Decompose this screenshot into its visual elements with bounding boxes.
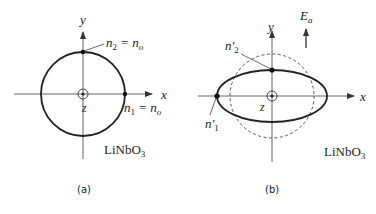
y-axis-label: y [266,19,274,34]
x-axis-label: x [160,87,167,102]
n1-label: n1 = no [124,100,162,117]
x-axis-label: x [359,89,366,104]
caption-a: (a) [77,184,91,195]
n1p-leader-line [210,98,216,115]
n1p-point [214,93,219,98]
n2-leader-line [84,44,104,51]
z-axis-dot [270,94,273,97]
field-label: Ea [299,8,313,25]
diagram-canvas: y x z n2 = no n1 = no LiNbO3 (a) Ea y x … [0,0,376,214]
n2p-leader-line [241,54,271,69]
panel-b: Ea y x z n′2 n′1 LiNbO3 (b) [198,8,366,195]
n2p-label: n′2 [225,38,239,55]
material-label: LiNbO3 [104,142,146,159]
z-axis-dot [81,92,84,95]
caption-b: (b) [265,184,279,195]
material-label: LiNbO3 [324,144,366,161]
z-axis-label: z [259,100,265,114]
z-axis-label: z [81,101,87,115]
n2-label: n2 = no [106,35,144,52]
n1p-label: n′1 [205,116,219,133]
y-axis-label: y [78,12,86,27]
n1-point [123,92,127,96]
panel-a: y x z n2 = no n1 = no LiNbO3 (a) [14,12,167,195]
